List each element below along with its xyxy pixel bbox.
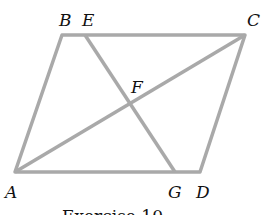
segment-eg bbox=[85, 35, 175, 172]
label-point-b: B bbox=[59, 12, 72, 29]
figure-caption: Exercise 10 bbox=[62, 208, 163, 215]
diagram-canvas bbox=[0, 0, 264, 215]
label-point-d: D bbox=[196, 184, 210, 201]
label-point-e: E bbox=[82, 12, 94, 29]
label-point-f: F bbox=[131, 79, 143, 96]
label-point-c: C bbox=[247, 12, 260, 29]
label-point-g: G bbox=[168, 184, 182, 201]
parallelogram-diagram: B E C F A G D Exercise 10 bbox=[0, 0, 264, 215]
label-point-a: A bbox=[5, 184, 17, 201]
